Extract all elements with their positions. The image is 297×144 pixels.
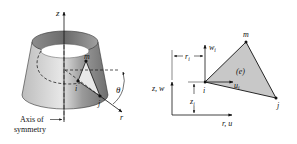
diagram-stage: z m i j θ r Axis of symmetry z, w r, u (… (0, 0, 297, 144)
node-j-label-right: j (276, 101, 280, 110)
r-u-axis-label: r, u (222, 119, 232, 128)
z-dim-label: zi (189, 97, 195, 107)
node-m-right (245, 41, 248, 44)
theta-label: θ (116, 85, 121, 95)
node-i-label-right: i (203, 86, 205, 95)
element-label: (e) (236, 67, 245, 76)
r-axis-label: r (120, 113, 124, 122)
node-i-left (76, 79, 79, 82)
z-w-axis-label: z, w (151, 84, 165, 93)
node-i-label: i (75, 84, 77, 93)
w-displacement-label: wi (209, 43, 216, 53)
axis-caption-line1: Axis of (20, 115, 44, 124)
axis-caption-line2: symmetry (14, 125, 46, 134)
axisymmetric-element-diagram: z m i j θ r Axis of symmetry z, w r, u (… (0, 0, 297, 144)
node-m-label-right: m (243, 30, 249, 39)
node-j-left (98, 94, 101, 97)
node-m-label: m (84, 52, 90, 61)
triangular-element-figure: z, w r, u (e) m i j wi ui ri zi (151, 30, 280, 128)
r-dim-label: ri (185, 52, 190, 62)
z-axis-label: z (55, 8, 60, 18)
frustum-hole (41, 44, 89, 58)
node-j-right (275, 97, 278, 100)
axisymmetric-solid: z m i j θ r Axis of symmetry (14, 8, 124, 134)
